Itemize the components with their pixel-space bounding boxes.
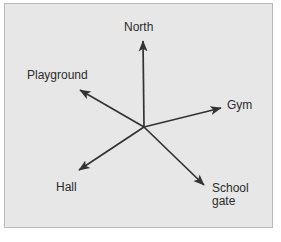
label-gym: Gym bbox=[227, 99, 252, 112]
figure-root: North Playground Gym Hall School gate bbox=[0, 0, 281, 242]
label-hall: Hall bbox=[56, 181, 77, 194]
label-north: North bbox=[124, 21, 153, 34]
label-playground: Playground bbox=[27, 69, 88, 82]
label-school-gate: School gate bbox=[212, 182, 249, 208]
label-school-gate-line2: gate bbox=[212, 195, 249, 208]
